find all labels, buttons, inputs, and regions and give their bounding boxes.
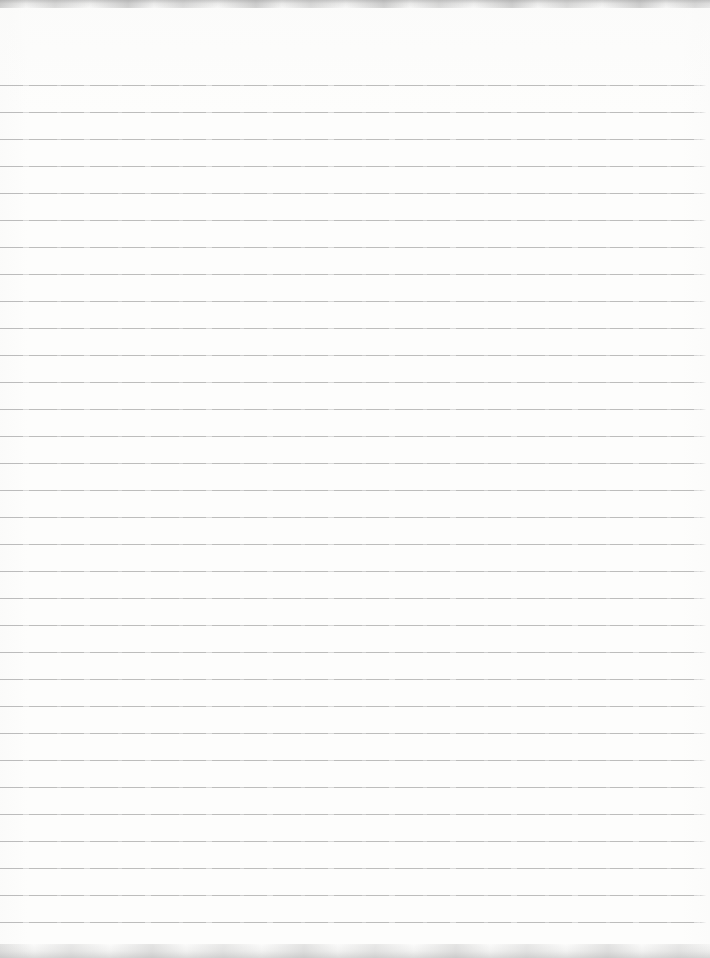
ruled-line <box>0 598 706 599</box>
ruled-line <box>0 868 706 869</box>
ruled-line <box>0 382 706 383</box>
ruled-line <box>0 544 706 545</box>
ruled-line <box>0 652 706 653</box>
ruled-line <box>0 463 706 464</box>
ruled-line <box>0 301 706 302</box>
ruled-lines <box>0 0 710 958</box>
ruled-line <box>0 436 706 437</box>
ruled-line <box>0 247 706 248</box>
ruled-line <box>0 85 706 86</box>
ruled-line <box>0 895 706 896</box>
ruled-line <box>0 922 706 923</box>
ruled-line <box>0 166 706 167</box>
ruled-line <box>0 760 706 761</box>
ruled-line <box>0 841 706 842</box>
ruled-line <box>0 328 706 329</box>
ruled-line <box>0 220 706 221</box>
ruled-line <box>0 679 706 680</box>
ruled-line <box>0 193 706 194</box>
ruled-line <box>0 355 706 356</box>
ruled-line <box>0 517 706 518</box>
ruled-line <box>0 787 706 788</box>
notebook-page <box>0 0 710 958</box>
ruled-line <box>0 625 706 626</box>
ruled-line <box>0 112 706 113</box>
ruled-line <box>0 814 706 815</box>
ruled-line <box>0 706 706 707</box>
ruled-line <box>0 733 706 734</box>
ruled-line <box>0 409 706 410</box>
ruled-line <box>0 490 706 491</box>
ruled-line <box>0 571 706 572</box>
ruled-line <box>0 139 706 140</box>
ruled-line <box>0 274 706 275</box>
